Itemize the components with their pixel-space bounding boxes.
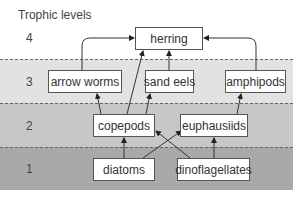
node-diatoms: diatoms bbox=[93, 158, 155, 181]
level-label-3: 3 bbox=[26, 75, 33, 89]
node-amphipods: amphipods bbox=[225, 70, 286, 93]
node-arrow-worms: arrow worms bbox=[48, 70, 122, 93]
level-divider-3-2 bbox=[0, 103, 293, 104]
level-divider-4-3 bbox=[0, 59, 293, 60]
level-label-2: 2 bbox=[26, 119, 33, 133]
node-euphausiids: euphausiids bbox=[180, 114, 248, 137]
diagram-title: Trophic levels bbox=[18, 8, 92, 22]
level-label-4: 4 bbox=[26, 31, 33, 45]
node-dinoflagellates: dinoflagellates bbox=[177, 158, 250, 181]
node-sand-eels: sand eels bbox=[145, 70, 194, 93]
level-label-1: 1 bbox=[26, 162, 33, 176]
node-herring: herring bbox=[135, 27, 203, 50]
level-divider-2-1 bbox=[0, 147, 293, 148]
node-copepods: copepods bbox=[93, 114, 155, 137]
